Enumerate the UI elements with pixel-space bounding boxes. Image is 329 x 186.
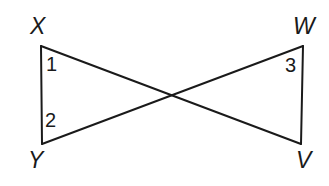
angle-label-3: 3 <box>285 55 296 75</box>
segment-XY <box>41 46 42 144</box>
figure-canvas <box>0 0 329 186</box>
vertex-label-x: X <box>30 15 45 38</box>
geometry-figure: X W Y V 1 2 3 <box>0 0 329 186</box>
vertex-label-v: V <box>296 149 311 172</box>
angle-label-1: 1 <box>46 54 57 74</box>
vertex-label-w: W <box>293 15 315 38</box>
angle-label-2: 2 <box>45 110 56 130</box>
vertex-label-y: Y <box>28 149 43 172</box>
